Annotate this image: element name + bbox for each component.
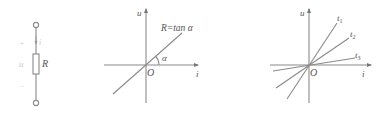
voltage-label: u xyxy=(19,59,24,69)
slope-label: R=tan α xyxy=(160,23,194,33)
origin-label: O xyxy=(310,67,317,78)
resistor-label: R xyxy=(41,58,48,69)
u-axis-label: u xyxy=(137,8,142,18)
time-varying-ui-graph: u i O t1 t2 t3 xyxy=(270,8,371,103)
top-terminal xyxy=(33,22,38,27)
characteristic-line-t1 xyxy=(287,23,337,99)
diagram-canvas: i + u R − u i O α R=tan α u i O t1 t2 t3 xyxy=(0,0,389,116)
angle-arc xyxy=(156,56,159,65)
resistor-circuit: i + u R − xyxy=(19,22,48,105)
current-label: i xyxy=(39,38,41,47)
line-label-t2: t2 xyxy=(350,29,356,40)
plus-sign: + xyxy=(20,40,24,48)
i-axis-label: i xyxy=(362,69,365,79)
angle-label: α xyxy=(162,53,167,63)
characteristic-line-t2 xyxy=(276,38,349,88)
line-label-t1: t1 xyxy=(337,13,343,24)
linear-ui-graph: u i O α R=tan α xyxy=(104,8,199,103)
minus-sign: − xyxy=(20,83,24,91)
resistor-symbol xyxy=(33,54,39,74)
bottom-terminal xyxy=(33,100,38,105)
line-label-t3: t3 xyxy=(355,50,361,61)
i-axis-label: i xyxy=(196,69,199,79)
u-axis-label: u xyxy=(300,8,305,18)
characteristic-line xyxy=(113,33,182,94)
origin-label: O xyxy=(147,67,154,78)
